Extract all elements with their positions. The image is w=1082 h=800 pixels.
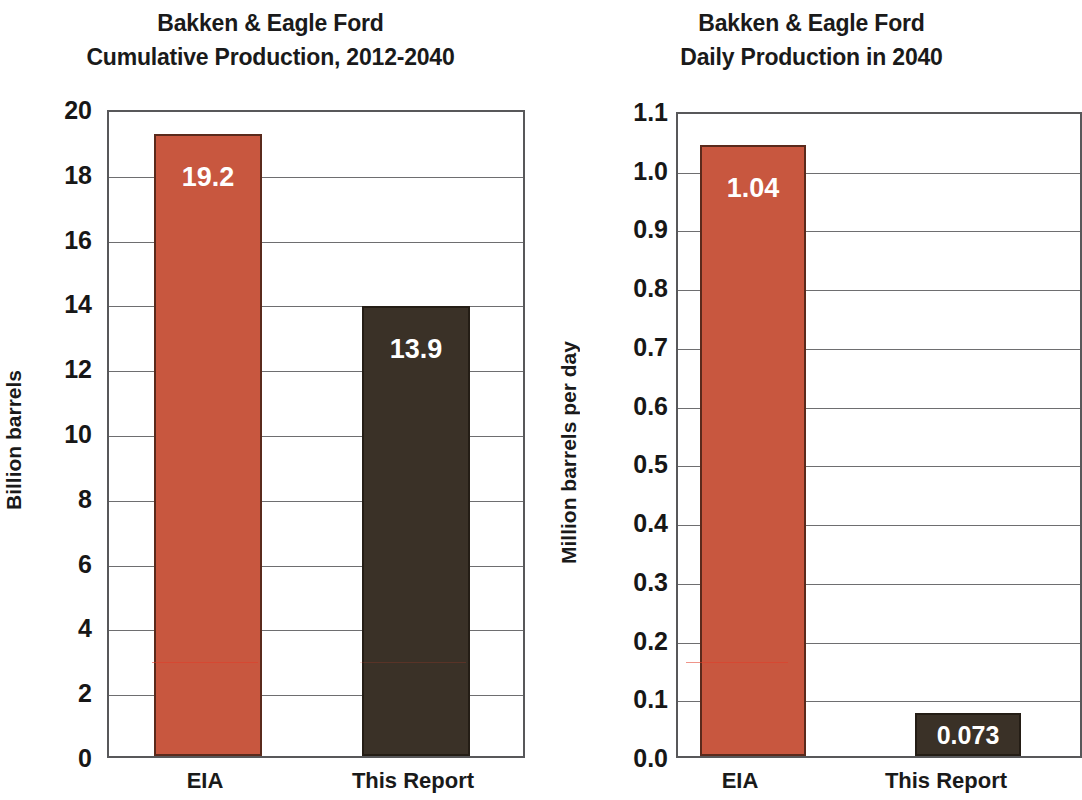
bar-this-report[interactable]: 13.9: [362, 306, 470, 756]
y-tick-label: 20: [64, 98, 92, 123]
y-tick-label: 0.7: [633, 334, 668, 359]
y-axis-ticks-right: 1.11.00.90.80.70.60.50.40.30.20.10.0: [598, 112, 668, 758]
y-tick-label: 18: [64, 162, 92, 187]
y-tick-label: 10: [64, 422, 92, 447]
panel-daily-production: Bakken & Eagle Ford Daily Production in …: [541, 0, 1082, 800]
y-tick-label: 2: [78, 681, 92, 706]
y-tick-label: 0: [78, 746, 92, 771]
plot-area-left: 19.213.9: [107, 110, 525, 758]
bar-eia[interactable]: 19.2: [154, 134, 262, 756]
bar-value-label: 0.073: [917, 723, 1019, 748]
y-tick-label: 16: [64, 227, 92, 252]
y-axis-title-left: Billion barrels: [2, 300, 26, 580]
bar-this-report[interactable]: 0.073: [915, 713, 1021, 756]
category-label-right-this-report: This Report: [871, 768, 1021, 794]
y-tick-label: 0.6: [633, 393, 668, 418]
y-tick-label: 0.8: [633, 276, 668, 301]
chart-title-right: Bakken & Eagle Ford Daily Production in …: [541, 6, 1082, 74]
bar-value-label: 13.9: [364, 336, 468, 363]
two-panel-bar-figure: Bakken & Eagle Ford Cumulative Productio…: [0, 0, 1082, 800]
y-tick-label: 0.5: [633, 452, 668, 477]
y-tick-label: 1.0: [633, 158, 668, 183]
y-tick-label: 0.3: [633, 569, 668, 594]
y-tick-label: 14: [64, 292, 92, 317]
bar-eia[interactable]: 1.04: [700, 145, 806, 756]
category-label-left-eia: EIA: [152, 768, 258, 794]
y-tick-label: 0.4: [633, 511, 668, 536]
y-tick-label: 0.2: [633, 628, 668, 653]
y-tick-label: 0.1: [633, 687, 668, 712]
y-tick-label: 0.0: [633, 746, 668, 771]
chart-title-right-line2: Daily Production in 2040: [541, 40, 1082, 74]
bar-value-label: 19.2: [156, 164, 260, 191]
y-axis-ticks-left: 20181614121086420: [30, 110, 92, 758]
y-axis-title-right: Million barrels per day: [557, 288, 581, 618]
y-tick-label: 12: [64, 357, 92, 382]
panel-cumulative-production: Bakken & Eagle Ford Cumulative Productio…: [0, 0, 541, 800]
plot-area-right: 1.040.073: [676, 112, 1082, 758]
y-tick-label: 4: [78, 616, 92, 641]
chart-title-left-line2: Cumulative Production, 2012-2040: [0, 40, 541, 74]
chart-title-right-line1: Bakken & Eagle Ford: [698, 10, 924, 36]
bar-value-label: 1.04: [702, 175, 804, 202]
y-tick-label: 1.1: [633, 100, 668, 125]
chart-title-left: Bakken & Eagle Ford Cumulative Productio…: [0, 6, 541, 74]
y-tick-label: 0.9: [633, 217, 668, 242]
category-label-right-eia: EIA: [685, 768, 795, 794]
category-label-left-this-report: This Report: [340, 768, 486, 794]
chart-title-left-line1: Bakken & Eagle Ford: [157, 10, 383, 36]
y-tick-label: 8: [78, 486, 92, 511]
y-tick-label: 6: [78, 551, 92, 576]
